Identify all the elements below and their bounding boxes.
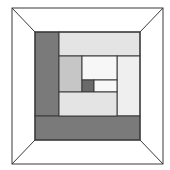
right-light-strip [117,56,140,116]
bottom-dark-strip [35,116,140,140]
top-light-strip [59,32,140,56]
center-square [82,80,94,92]
inner-left-gray [59,56,82,92]
inner-bottom-gray [59,92,117,116]
inner-right-white [94,80,117,92]
quilt-block-diagram [0,0,170,170]
inner-top-white [82,56,117,80]
left-dark-strip [35,32,59,116]
